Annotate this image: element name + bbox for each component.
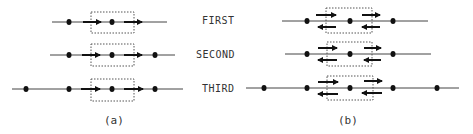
panel-a: (a) [12, 12, 183, 127]
node-dot [67, 19, 72, 25]
panel-a-row-second [50, 44, 175, 66]
node-dot [348, 51, 353, 57]
node-dot [24, 86, 29, 92]
panel-b: (b) [246, 8, 459, 127]
node-dot [153, 86, 158, 92]
node-dot [391, 85, 396, 91]
panel-b-row-first [282, 8, 428, 33]
panel-b-row-second [285, 42, 431, 66]
node-dot [153, 52, 158, 58]
row-label-third: THIRD [202, 83, 235, 94]
row-label-first: FIRST [202, 15, 235, 26]
panel-a-row-first [52, 12, 167, 33]
node-dot [67, 86, 72, 92]
node-dot [110, 19, 115, 25]
caption-b: (b) [338, 114, 358, 127]
panel-b-row-third [246, 76, 459, 100]
node-dot [262, 85, 267, 91]
node-dot [391, 51, 396, 57]
caption-a: (a) [104, 114, 124, 127]
diagram-canvas: (a) FIRST SECOND THIRD [0, 0, 473, 134]
row-label-second: SECOND [196, 49, 235, 60]
node-dot [305, 85, 310, 91]
node-dot [435, 85, 440, 91]
node-dot [348, 85, 353, 91]
row-labels: FIRST SECOND THIRD [196, 15, 235, 94]
node-dot [305, 51, 310, 57]
panel-a-row-third [12, 79, 183, 101]
node-dot [110, 52, 115, 58]
node-dot [110, 86, 115, 92]
node-dot [305, 18, 310, 24]
node-dot [67, 52, 72, 58]
node-dot [348, 18, 353, 24]
node-dot [391, 18, 396, 24]
